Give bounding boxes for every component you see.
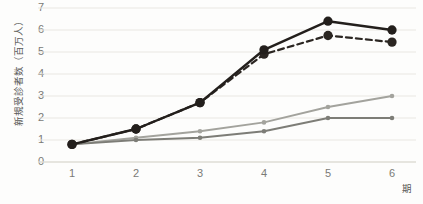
data-point-marker bbox=[387, 25, 396, 34]
data-point-marker bbox=[195, 98, 204, 107]
x-tick-label: 5 bbox=[313, 168, 343, 179]
data-point-marker bbox=[323, 31, 332, 40]
data-point-marker bbox=[326, 116, 331, 121]
data-point-marker bbox=[390, 116, 395, 121]
line-chart: 新規受診者数（百万人） 01234567 123456 期 bbox=[0, 0, 423, 204]
series-line bbox=[72, 96, 392, 144]
x-axis-title: 期 bbox=[402, 181, 412, 195]
x-tick-label: 1 bbox=[57, 168, 87, 179]
series-line bbox=[72, 36, 392, 145]
x-tick-label: 6 bbox=[377, 168, 407, 179]
data-point-marker bbox=[390, 94, 395, 99]
data-point-marker bbox=[387, 37, 396, 46]
data-point-marker bbox=[259, 45, 268, 54]
data-point-marker bbox=[323, 17, 332, 26]
data-point-marker bbox=[326, 105, 331, 110]
data-point-marker bbox=[198, 129, 203, 134]
y-axis-tick-labels: 01234567 bbox=[22, 0, 44, 204]
series-line bbox=[72, 118, 392, 144]
data-point-marker bbox=[67, 140, 76, 149]
data-point-marker bbox=[262, 129, 267, 134]
x-tick-label: 2 bbox=[121, 168, 151, 179]
data-point-marker bbox=[134, 138, 139, 143]
data-point-marker bbox=[262, 120, 267, 125]
x-tick-label: 3 bbox=[185, 168, 215, 179]
x-axis-tick-labels: 123456 bbox=[48, 168, 418, 188]
data-point-marker bbox=[198, 136, 203, 141]
data-point-marker bbox=[131, 124, 140, 133]
x-tick-label: 4 bbox=[249, 168, 279, 179]
